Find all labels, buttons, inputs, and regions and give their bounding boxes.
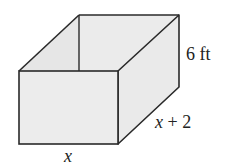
depth-label-rest: + 2 (163, 112, 191, 132)
width-label: x (63, 146, 72, 166)
open-box-diagram: 6 ft x + 2 x (0, 0, 227, 166)
depth-label: x + 2 (154, 112, 191, 132)
front-face (19, 71, 118, 144)
height-label: 6 ft (186, 44, 211, 64)
depth-label-var: x (154, 112, 163, 132)
